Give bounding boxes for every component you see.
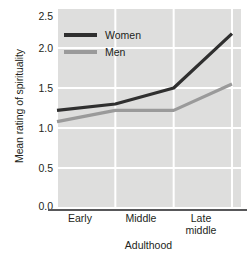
y-tick-label-2-5: 2.5 [25,10,53,22]
legend-label-women: Women [105,30,141,41]
plot-area: Women Men [56,8,241,208]
x-tick-label-early-line1: Early [68,212,92,224]
x-tick-label-late-middle-line2: middle [169,224,233,236]
y-tick-label-2-0: 2.0 [25,42,53,54]
legend-swatch-women [64,33,97,37]
x-axis-title: Adulthood [56,239,241,251]
y-tick-label-0-5: 0.5 [25,162,53,174]
legend-item-men: Men [64,45,174,59]
x-tick-label-early: Early [48,212,112,224]
legend: Women Men [64,28,174,62]
x-tick-label-late: Late [226,212,247,224]
legend-swatch-men [64,50,97,54]
x-axis-line [48,209,247,211]
y-tick-label-1-5: 1.5 [25,82,53,94]
x-tick-label-middle: Middle [109,212,173,224]
x-tick-label-late-middle: Late middle [169,212,233,236]
y-tick-label-1-0: 1.0 [25,122,53,134]
legend-label-men: Men [105,47,125,58]
x-tick-label-late-middle-line1: Late [191,212,211,224]
spirituality-line-chart: Mean rating of spirituality 2.5 2.0 1.5 … [0,0,247,253]
x-tick-label-middle-line1: Middle [126,212,157,224]
legend-item-women: Women [64,28,174,42]
series-line-men [57,84,232,122]
